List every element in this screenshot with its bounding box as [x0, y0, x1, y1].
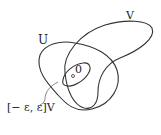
label-v: V — [126, 10, 134, 21]
label-u: U — [38, 34, 48, 46]
label-interval-set: [− ε, ε]V — [7, 102, 55, 113]
label-origin: 0 — [75, 64, 82, 75]
set-u-curve — [39, 42, 118, 110]
